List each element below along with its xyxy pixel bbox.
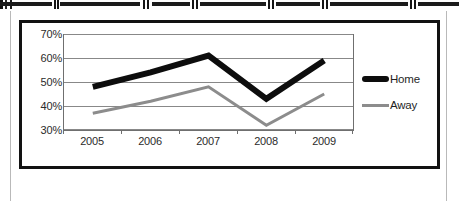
x-axis-tick bbox=[295, 130, 296, 134]
y-axis-tick-label: 70% bbox=[26, 29, 62, 40]
scan-artifact-bar bbox=[276, 2, 320, 6]
x-axis-tick-label: 2009 bbox=[301, 135, 347, 148]
scan-artifact-tick bbox=[326, 0, 328, 9]
x-axis-tick-label: 2007 bbox=[185, 135, 231, 148]
x-axis-labels: 2005 2006 2007 2008 2009 bbox=[63, 135, 354, 151]
scan-artifact-tick bbox=[410, 0, 412, 9]
scan-artifact-strip bbox=[0, 0, 459, 9]
y-axis-tick-label: 40% bbox=[26, 101, 62, 112]
chart-legend: Home Away bbox=[362, 71, 436, 121]
x-axis bbox=[63, 130, 354, 131]
y-axis-labels: 70% 60% 50% 40% 30% bbox=[26, 29, 62, 134]
x-axis-tick-label: 2006 bbox=[127, 135, 173, 148]
series-line-home bbox=[93, 56, 324, 99]
legend-swatch-home-icon bbox=[362, 76, 389, 82]
scan-artifact-tick bbox=[322, 0, 324, 9]
x-axis-tick bbox=[63, 130, 64, 134]
chart-inner: 70% 60% 50% 40% 30% 2005 bbox=[22, 23, 437, 166]
x-axis-tick bbox=[179, 130, 180, 134]
scan-artifact-bar bbox=[418, 2, 459, 6]
scan-artifact-bar bbox=[0, 2, 52, 6]
scan-artifact-tick bbox=[192, 0, 194, 9]
legend-item-away: Away bbox=[362, 97, 417, 113]
legend-label-home: Home bbox=[390, 73, 420, 85]
scan-artifact-bar bbox=[60, 2, 140, 6]
x-axis-tick bbox=[352, 130, 353, 134]
x-axis-tick-label: 2008 bbox=[243, 135, 289, 148]
scan-artifact-tick bbox=[414, 0, 416, 9]
x-axis-tick bbox=[121, 130, 122, 134]
x-axis-tick bbox=[237, 130, 238, 134]
y-axis-tick-label: 60% bbox=[26, 53, 62, 64]
scan-artifact-bar bbox=[330, 2, 408, 6]
series-line-away bbox=[93, 87, 324, 125]
plot-area bbox=[63, 34, 354, 130]
scan-artifact-tick bbox=[196, 0, 198, 9]
scan-artifact-tick bbox=[54, 0, 56, 9]
scan-artifact-tick bbox=[147, 0, 149, 9]
y-axis-tick-label: 30% bbox=[26, 125, 62, 136]
x-axis-tick-label: 2005 bbox=[69, 135, 115, 148]
scan-artifact-tick bbox=[143, 0, 145, 9]
chart-container: 70% 60% 50% 40% 30% 2005 bbox=[19, 20, 440, 169]
scan-artifact-tick bbox=[268, 0, 270, 9]
series-lines bbox=[64, 34, 353, 130]
legend-label-away: Away bbox=[390, 99, 417, 111]
scan-artifact-tick bbox=[272, 0, 274, 9]
legend-item-home: Home bbox=[362, 71, 420, 87]
scan-artifact-bar bbox=[152, 2, 190, 6]
scan-artifact-tick bbox=[57, 0, 59, 9]
y-axis-tick-label: 50% bbox=[26, 77, 62, 88]
legend-swatch-away-icon bbox=[362, 104, 389, 107]
scan-artifact-bar bbox=[200, 2, 266, 6]
